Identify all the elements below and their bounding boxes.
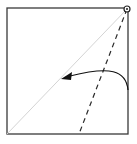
pivot-point-center	[126, 8, 128, 10]
origami-diagram	[0, 0, 137, 144]
